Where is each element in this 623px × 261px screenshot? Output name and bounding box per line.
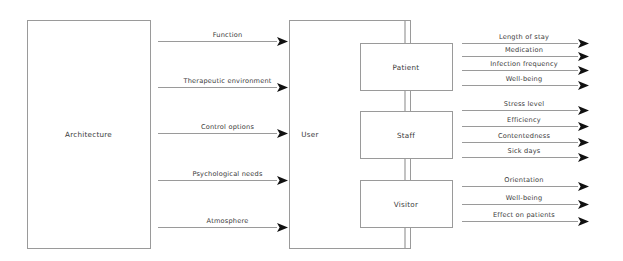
output-label-0: Length of stay xyxy=(499,33,549,41)
output-label-9: Well-being xyxy=(506,194,543,202)
output-label-4: Stress level xyxy=(504,100,544,108)
architecture-box-label: Architecture xyxy=(65,130,112,139)
input-label-3: Psychological needs xyxy=(192,170,262,178)
output-label-1: Medication xyxy=(505,46,543,54)
input-label-2: Control options xyxy=(201,123,254,131)
input-arrows xyxy=(158,42,277,228)
output-label-3: Well-being xyxy=(506,75,543,83)
output-label-2: Infection frequency xyxy=(490,60,558,68)
diagram-canvas: ArchitectureUserPatientStaffVisitorFunct… xyxy=(0,0,623,261)
input-label-0: Function xyxy=(213,31,243,39)
output-label-10: Effect on patients xyxy=(493,211,555,219)
patient-box-label: Patient xyxy=(393,62,420,71)
output-label-6: Contentedness xyxy=(498,132,550,140)
output-label-7: Sick days xyxy=(508,147,541,155)
user-box-label: User xyxy=(301,130,318,139)
staff-box-label: Staff xyxy=(397,130,415,139)
visitor-box-label: Visitor xyxy=(394,199,418,208)
output-label-8: Orientation xyxy=(504,176,543,184)
input-label-1: Therapeutic environment xyxy=(183,77,271,85)
input-label-4: Atmosphere xyxy=(207,217,249,225)
output-label-5: Efficiency xyxy=(507,116,541,124)
